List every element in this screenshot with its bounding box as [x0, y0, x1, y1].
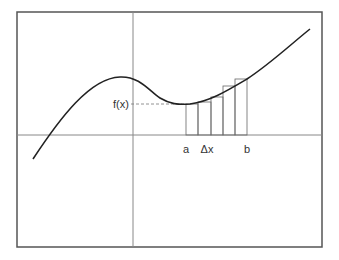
riemann-rectangle-5: [235, 79, 247, 135]
diagram-frame: [17, 12, 322, 247]
riemann-rectangle-1: [186, 104, 198, 135]
tick-label-b: b: [244, 143, 250, 155]
function-label: f(x): [113, 98, 129, 110]
riemann-rectangle-2: [198, 102, 211, 135]
function-curve: [33, 29, 310, 159]
riemann-rectangle-3: [211, 97, 223, 135]
tick-labels: aΔxb: [183, 143, 250, 155]
tick-label-a: a: [183, 143, 190, 155]
riemann-rectangles: [186, 79, 247, 135]
tick-label-delta-x: Δx: [201, 143, 214, 155]
riemann-sum-diagram: f(x) aΔxb: [0, 0, 339, 260]
riemann-rectangle-4: [223, 86, 235, 135]
